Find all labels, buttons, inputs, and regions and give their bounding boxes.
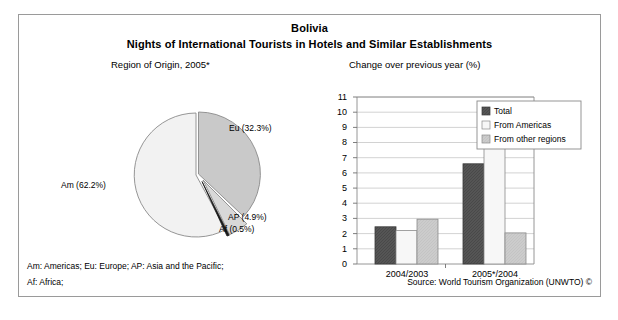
footnote-abbreviations-line-2: Af: Africa; xyxy=(27,277,63,287)
y-axis-tick-8: 8 xyxy=(327,137,347,147)
y-axis-tick-7: 7 xyxy=(327,153,347,163)
bar-chart-svg xyxy=(319,73,587,273)
legend-label-total: Total xyxy=(494,106,512,116)
pie-chart-caption: Region of Origin, 2005* xyxy=(111,59,210,70)
y-axis-tick-10: 10 xyxy=(327,107,347,117)
y-axis-tick-3: 3 xyxy=(327,213,347,223)
bar-chart: 11 10 9 8 7 6 5 4 3 2 1 0 2004/2003 2005… xyxy=(319,73,587,273)
legend-swatch-from-americas xyxy=(482,121,490,129)
pie-chart: Eu (32.3%) Am (62.2%) AP (4.9%) Af (0.5%… xyxy=(39,73,304,248)
bar-americas-2004-2003 xyxy=(396,231,417,264)
legend-label-from-americas: From Americas xyxy=(494,120,551,130)
pie-label-am: Am (62.2%) xyxy=(61,180,106,190)
y-axis-tick-2: 2 xyxy=(327,229,347,239)
y-axis-tick-6: 6 xyxy=(327,168,347,178)
bar-chart-caption: Change over previous year (%) xyxy=(349,59,480,70)
y-axis-tick-0: 0 xyxy=(327,259,347,269)
y-axis-tick-5: 5 xyxy=(327,183,347,193)
bar-other-2005-2004 xyxy=(505,233,526,264)
y-tick-marks xyxy=(353,97,357,264)
legend-swatch-total xyxy=(482,107,490,115)
y-axis-tick-4: 4 xyxy=(327,198,347,208)
chart-subtitle: Nights of International Tourists in Hote… xyxy=(19,38,600,50)
source-attribution: Source: World Tourism Organization (UNWT… xyxy=(407,277,592,287)
pie-label-ap: AP (4.9%) xyxy=(228,212,267,222)
page-title: Bolivia xyxy=(19,22,600,34)
bar-other-2004-2003 xyxy=(417,219,438,264)
pie-label-af: Af (0.5%) xyxy=(219,224,254,234)
bar-total-2004-2003 xyxy=(375,227,396,264)
pie-label-eu: Eu (32.3%) xyxy=(229,123,272,133)
y-axis-tick-11: 11 xyxy=(327,92,347,102)
footnote-abbreviations-line-1: Am: Americas; Eu: Europe; AP: Asia and t… xyxy=(27,261,224,271)
legend-swatch-from-other-regions xyxy=(482,135,490,143)
y-axis-tick-1: 1 xyxy=(327,244,347,254)
bar-total-2005-2004 xyxy=(463,164,484,264)
legend-label-from-other-regions: From other regions xyxy=(494,134,566,144)
chart-figure-frame: Bolivia Nights of International Tourists… xyxy=(18,14,601,297)
y-axis-tick-9: 9 xyxy=(327,122,347,132)
